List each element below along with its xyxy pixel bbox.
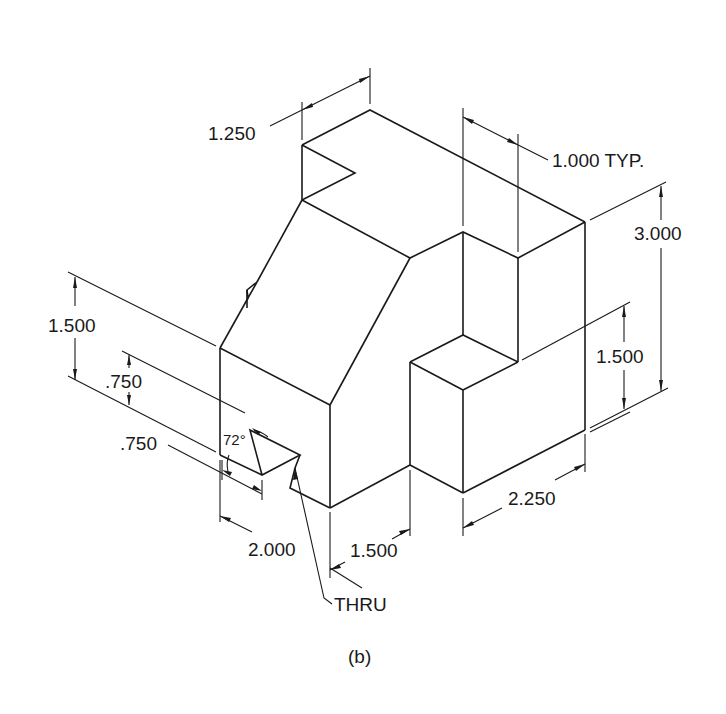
dim-notch-upper: .750 — [105, 351, 245, 413]
dim-label-notch-angle: 72° — [223, 431, 246, 448]
dim-right-width: 2.250 — [463, 434, 585, 536]
dim-label-notch-upper: .750 — [105, 371, 142, 392]
dim-label-notch-lower: .750 — [120, 433, 157, 454]
dim-top-depth: 1.250 — [208, 68, 370, 144]
object-outline — [220, 110, 585, 508]
dim-overall-height: 3.000 — [590, 182, 682, 428]
dim-label-front-width-mid: 1.500 — [350, 540, 398, 561]
dim-front-width-mid: 1.500 — [330, 470, 410, 588]
dim-left-height: 1.500 — [48, 272, 216, 452]
dim-label-top-depth: 1.250 — [208, 123, 256, 144]
dim-label-front-width-left: 2.000 — [248, 539, 296, 560]
dim-notch-angle: 72° — [223, 428, 268, 472]
dim-lower-step-height: 1.500 — [522, 302, 644, 432]
dim-label-typical-width: 1.000 TYP. — [552, 150, 644, 171]
dim-label-overall-height: 3.000 — [634, 223, 682, 244]
thru-note: THRU — [334, 594, 387, 615]
isometric-drawing: 1.250 1.000 TYP. 3.000 1.500 — [0, 0, 726, 714]
dim-label-lower-step-height: 1.500 — [596, 346, 644, 367]
figure-caption: (b) — [348, 646, 371, 667]
dim-typical-width: 1.000 TYP. — [463, 108, 644, 252]
dim-label-right-width: 2.250 — [508, 488, 556, 509]
dim-label-left-height: 1.500 — [48, 315, 96, 336]
dim-front-width-left: 2.000 — [220, 460, 296, 560]
